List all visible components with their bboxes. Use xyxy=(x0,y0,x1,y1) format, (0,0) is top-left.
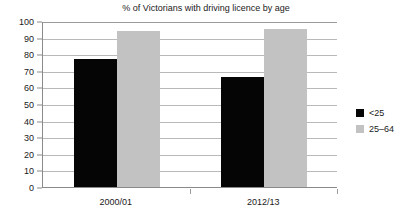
y-tick-label: 60 xyxy=(24,84,34,93)
chart-title: % of Victorians with driving licence by … xyxy=(0,2,412,14)
bar-2012-13-series-0 xyxy=(221,77,264,187)
gridline xyxy=(43,22,337,23)
bar-2000-01-series-1 xyxy=(117,31,160,187)
bar-2012-13-series-1 xyxy=(264,29,307,187)
bar-2000-01-series-0 xyxy=(74,59,117,187)
x-axis-end-tick xyxy=(337,189,338,194)
y-tick-label: 50 xyxy=(24,101,34,110)
legend-swatch-icon xyxy=(356,109,364,117)
y-tick-label: 10 xyxy=(24,167,34,176)
y-tick-label: 0 xyxy=(29,184,34,193)
x-axis-separator xyxy=(190,189,191,194)
y-tick-label: 80 xyxy=(24,51,34,60)
x-tick-label: 2000/01 xyxy=(99,197,132,208)
y-tick-label: 30 xyxy=(24,134,34,143)
y-tick-label: 40 xyxy=(24,117,34,126)
legend-item-0[interactable]: <25 xyxy=(356,105,412,121)
legend-label: <25 xyxy=(369,108,384,118)
plot-area xyxy=(42,22,337,188)
x-tick-label: 2012/13 xyxy=(247,197,280,208)
legend-item-1[interactable]: 25–64 xyxy=(356,121,412,137)
legend-label: 25–64 xyxy=(369,124,394,134)
chart-legend: <2525–64 xyxy=(356,105,412,137)
y-tick-label: 20 xyxy=(24,150,34,159)
y-tick-label: 90 xyxy=(24,34,34,43)
x-axis: 2000/012012/13 xyxy=(42,189,338,214)
y-axis: 0102030405060708090100 xyxy=(0,22,42,189)
y-tick-label: 70 xyxy=(24,67,34,76)
y-tick-label: 100 xyxy=(19,18,34,27)
chart-container: % of Victorians with driving licence by … xyxy=(0,0,412,214)
legend-swatch-icon xyxy=(356,125,364,133)
